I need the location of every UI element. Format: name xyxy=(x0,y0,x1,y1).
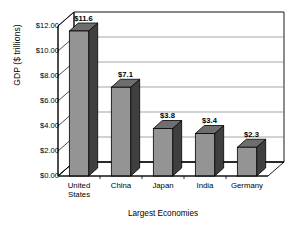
x-axis-category-labels: UnitedStatesChinaJapanIndiaGermany xyxy=(68,181,263,199)
bar xyxy=(153,121,181,177)
x-axis-category-label: Germany xyxy=(231,181,263,190)
bar xyxy=(111,79,139,176)
x-axis-category-label: India xyxy=(197,181,215,190)
x-axis-title: Largest Economies xyxy=(128,209,198,218)
bar-value-label: $3.8 xyxy=(160,111,175,120)
bar xyxy=(69,23,97,176)
x-axis-category-label: China xyxy=(111,181,132,190)
bar-value-label: $3.4 xyxy=(202,116,218,125)
bar-value-label: $7.1 xyxy=(118,70,134,79)
plot-area: $11.6$7.1$3.8$3.4$2.3 UnitedStatesChinaJ… xyxy=(0,0,299,230)
x-axis-category-label: Japan xyxy=(152,181,173,190)
x-axis xyxy=(58,176,268,179)
x-axis-category-label: States xyxy=(68,190,90,199)
bar-chart: GDP ($ trillions) $0.00$2.00$4.00$6.00$8… xyxy=(0,0,299,230)
bar-value-label: $11.6 xyxy=(74,14,93,23)
bar xyxy=(237,139,265,176)
bar xyxy=(195,126,223,177)
bar-value-label: $2.3 xyxy=(244,130,259,139)
x-axis-category-label: United xyxy=(68,181,91,190)
